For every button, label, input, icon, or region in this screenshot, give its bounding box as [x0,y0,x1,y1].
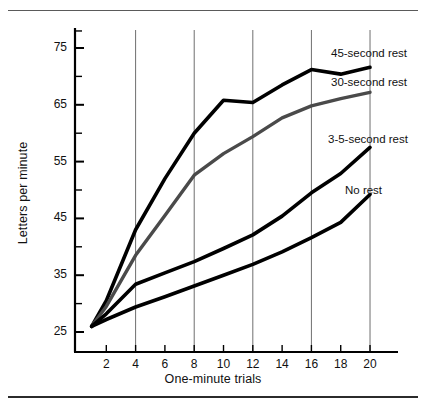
x-axis-title: One-minute trials [0,372,426,386]
y-tick-label-25: 25 [41,324,67,338]
series-label-30-second-rest: 30-second rest [331,76,407,88]
y-tick-label-55: 55 [41,154,67,168]
x-tick-label-18: 18 [328,357,354,371]
x-tick-label-2: 2 [93,357,119,371]
y-axis-title: Letters per minute [16,108,30,278]
series-lines [92,67,370,326]
line-chart-canvas [0,0,426,411]
y-axis-ticks [75,31,84,332]
series-line-1 [92,92,370,326]
x-tick-label-12: 12 [240,357,266,371]
series-label-3-5-second-rest: 3-5-second rest [328,133,408,145]
x-tick-label-8: 8 [181,357,207,371]
y-tick-label-65: 65 [41,97,67,111]
y-tick-label-45: 45 [41,210,67,224]
x-tick-label-20: 20 [357,357,383,371]
x-tick-label-6: 6 [152,357,178,371]
series-label-45-second-rest: 45-second rest [331,47,407,59]
x-tick-label-10: 10 [211,357,237,371]
figure-container: 253545556575 2468101214161820 45-second … [0,0,426,411]
x-tick-label-14: 14 [269,357,295,371]
series-label-no-rest: No rest [345,184,382,196]
x-tick-label-16: 16 [298,357,324,371]
x-tick-label-4: 4 [123,357,149,371]
y-tick-label-35: 35 [41,267,67,281]
y-tick-label-75: 75 [41,40,67,54]
